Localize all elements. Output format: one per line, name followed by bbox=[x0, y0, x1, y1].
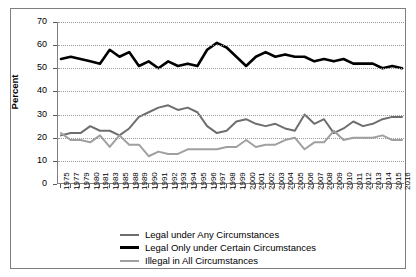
x-tick-mark bbox=[118, 184, 119, 188]
x-tick-mark bbox=[99, 184, 100, 188]
gridline bbox=[58, 161, 404, 162]
gridline bbox=[58, 45, 404, 46]
x-tick-mark bbox=[323, 184, 324, 188]
series-line bbox=[61, 43, 402, 68]
gridline bbox=[58, 138, 404, 139]
y-tick-label: 70 bbox=[19, 17, 47, 26]
series-lines bbox=[58, 22, 405, 184]
x-tick-mark bbox=[187, 184, 188, 188]
y-tick-label: 30 bbox=[19, 110, 47, 119]
y-tick-label: 20 bbox=[19, 133, 47, 142]
x-tick-mark bbox=[372, 184, 373, 188]
x-tick-mark bbox=[343, 184, 344, 188]
gridline bbox=[58, 91, 404, 92]
gridline bbox=[58, 68, 404, 69]
x-tick-mark bbox=[60, 184, 61, 188]
gridline bbox=[58, 115, 404, 116]
legend-swatch bbox=[120, 234, 139, 236]
x-tick-mark bbox=[216, 184, 217, 188]
legend-item[interactable]: Legal Only under Certain Circumstances bbox=[120, 241, 316, 254]
chart-figure: Percent 010203040506070 1975197719791980… bbox=[0, 0, 416, 277]
x-tick-label: 2016 bbox=[404, 172, 412, 190]
x-tick-mark bbox=[265, 184, 266, 188]
x-tick-mark bbox=[284, 184, 285, 188]
x-tick-mark bbox=[401, 184, 402, 188]
series-line bbox=[61, 131, 402, 156]
x-tick-mark bbox=[391, 184, 392, 188]
x-tick-mark bbox=[89, 184, 90, 188]
x-tick-mark bbox=[362, 184, 363, 188]
y-tick-label: 40 bbox=[19, 86, 47, 95]
x-tick-mark bbox=[294, 184, 295, 188]
legend-label: Legal Only under Certain Circumstances bbox=[145, 242, 316, 253]
plot-area bbox=[57, 22, 404, 184]
x-tick-mark bbox=[313, 184, 314, 188]
x-tick-mark bbox=[128, 184, 129, 188]
y-tick-label: 0 bbox=[19, 179, 47, 188]
y-tick-label: 50 bbox=[19, 63, 47, 72]
chart-legend: Legal under Any CircumstancesLegal Only … bbox=[120, 228, 316, 267]
x-tick-mark bbox=[70, 184, 71, 188]
x-tick-mark bbox=[177, 184, 178, 188]
x-tick-mark bbox=[274, 184, 275, 188]
y-axis-label: Percent bbox=[9, 75, 20, 110]
legend-swatch bbox=[120, 260, 139, 262]
legend-swatch bbox=[120, 246, 139, 249]
x-tick-mark bbox=[148, 184, 149, 188]
y-tick-label: 60 bbox=[19, 40, 47, 49]
x-tick-mark bbox=[206, 184, 207, 188]
x-tick-mark bbox=[304, 184, 305, 188]
series-line bbox=[61, 105, 402, 135]
x-tick-mark bbox=[226, 184, 227, 188]
x-tick-mark bbox=[167, 184, 168, 188]
x-tick-mark bbox=[235, 184, 236, 188]
legend-item[interactable]: Legal under Any Circumstances bbox=[120, 228, 316, 241]
legend-label: Illegal in All Circumstances bbox=[145, 255, 258, 266]
x-tick-mark bbox=[109, 184, 110, 188]
gridline bbox=[58, 22, 404, 23]
x-tick-mark bbox=[382, 184, 383, 188]
legend-item[interactable]: Illegal in All Circumstances bbox=[120, 254, 316, 267]
x-tick-mark bbox=[352, 184, 353, 188]
x-tick-mark bbox=[196, 184, 197, 188]
x-tick-mark bbox=[138, 184, 139, 188]
x-tick-mark bbox=[157, 184, 158, 188]
legend-label: Legal under Any Circumstances bbox=[145, 229, 279, 240]
y-tick-label: 10 bbox=[19, 156, 47, 165]
x-tick-mark bbox=[255, 184, 256, 188]
x-tick-mark bbox=[245, 184, 246, 188]
x-tick-mark bbox=[333, 184, 334, 188]
x-tick-mark bbox=[79, 184, 80, 188]
y-tick-mark bbox=[53, 184, 57, 185]
